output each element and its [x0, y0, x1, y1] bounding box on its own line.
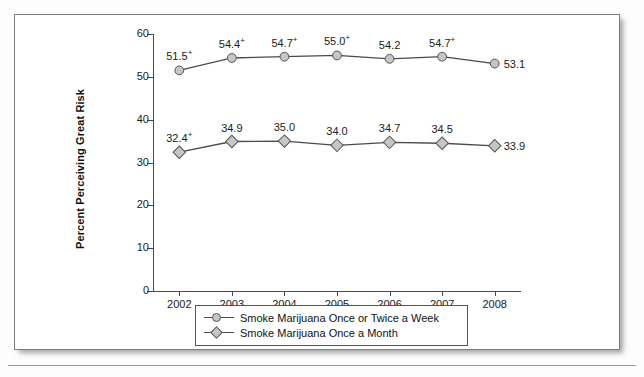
legend-item-2[interactable]: Smoke Marijuana Once a Month [204, 325, 459, 340]
data-point-marker [438, 52, 447, 61]
data-label: 54.7+ [412, 38, 472, 49]
data-label: 33.9 [504, 141, 525, 152]
page-horizontal-rule [8, 365, 636, 366]
data-point-marker [385, 54, 394, 63]
data-point-marker [278, 135, 290, 147]
legend-marker-circle-icon [204, 311, 234, 325]
chart-legend: Smoke Marijuana Once or Twice a WeekSmok… [195, 305, 468, 346]
data-point-marker [227, 54, 236, 63]
data-point-marker [226, 135, 238, 147]
figure-panel: Percent Perceiving Great Risk 0102030405… [14, 14, 620, 350]
data-point-marker [333, 51, 342, 60]
data-label: 34.0 [307, 126, 367, 137]
legend-label: Smoke Marijuana Once a Month [240, 327, 398, 339]
data-label: 55.0+ [307, 36, 367, 47]
data-label: 32.4+ [149, 133, 209, 144]
data-point-marker [488, 140, 500, 152]
data-point-marker [175, 66, 184, 75]
plot-area: Percent Perceiving Great Risk 0102030405… [15, 15, 621, 351]
data-label: 34.5 [412, 124, 472, 135]
data-point-marker [490, 59, 499, 68]
data-label: 54.2 [360, 40, 420, 51]
legend-label: Smoke Marijuana Once or Twice a Week [240, 312, 439, 324]
data-point-marker [173, 146, 185, 158]
data-label: 54.7+ [254, 38, 314, 49]
data-point-marker [436, 137, 448, 149]
legend-marker-diamond-icon [204, 326, 234, 340]
data-label: 51.5+ [149, 51, 209, 62]
data-label: 53.1 [504, 59, 525, 70]
data-point-marker [331, 139, 343, 151]
data-point-marker [280, 52, 289, 61]
data-label: 34.9 [202, 123, 262, 134]
data-label: 34.7 [360, 123, 420, 134]
data-label: 35.0 [254, 122, 314, 133]
series-lines [15, 15, 621, 351]
legend-item-1[interactable]: Smoke Marijuana Once or Twice a Week [204, 310, 459, 325]
data-label: 54.4+ [202, 39, 262, 50]
data-point-marker [383, 136, 395, 148]
